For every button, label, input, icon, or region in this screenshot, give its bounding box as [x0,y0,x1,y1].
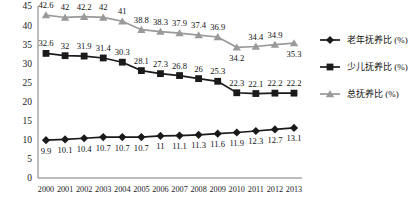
data-point-value-label: 10.7 [134,143,150,153]
data-point-marker-diamond [175,131,183,139]
x-axis-tick-label: 2004 [114,185,130,194]
data-point-value-label: 35.3 [286,49,301,59]
data-point-value-label: 22.2 [286,78,301,88]
data-point-marker-diamond [326,36,334,44]
data-point-value-label: 10.7 [96,143,112,153]
chart-canvas: 0510152025303540452000200120022003200420… [0,0,410,206]
y-axis-tick-label: 0 [27,173,32,183]
x-axis-tick-label: 2008 [190,185,206,194]
data-point-marker-diamond [156,132,164,140]
x-axis-tick-label: 2003 [95,185,111,194]
y-axis-tick-label: 10 [23,135,33,145]
x-axis-tick-label: 2009 [210,185,226,194]
data-point-value-label: 10.7 [115,143,131,153]
data-point-marker-diamond [80,134,88,142]
data-point-value-label: 37.9 [172,18,187,28]
data-point-value-label: 10.1 [58,145,73,155]
series-3: 42.64242.2424138.838.337.937.436.934.234… [38,0,301,63]
x-axis-tick-label: 2005 [133,185,149,194]
x-axis-tick-label: 2001 [57,185,73,194]
legend-item-2[interactable]: 少儿抚养比 (%) [320,61,408,72]
data-point-value-label: 30.3 [115,47,130,57]
data-point-value-label: 11 [156,141,164,151]
data-point-value-label: 10.4 [77,144,93,154]
data-point-value-label: 42.2 [77,2,92,12]
y-axis-tick-label: 15 [23,116,33,126]
data-point-marker-square [119,59,126,66]
x-axis-tick-label: 2002 [76,185,92,194]
x-axis-tick-label: 2012 [267,185,283,194]
data-point-value-label: 38.3 [153,17,168,27]
data-point-marker-square [291,90,298,97]
data-point-value-label: 31.9 [77,41,92,51]
data-point-marker-diamond [99,133,107,141]
data-point-marker-square [62,52,69,59]
data-point-marker-diamond [233,128,241,136]
data-point-value-label: 28.1 [134,56,149,66]
legend-label: 老年抚养比 (%) [347,34,408,45]
legend-item-3[interactable]: 总抚养比 (%) [320,88,399,99]
data-point-value-label: 34.9 [267,30,282,40]
data-point-value-label: 31.4 [96,43,112,53]
data-point-value-label: 32.6 [38,38,54,48]
y-axis-tick-label: 35 [23,40,33,50]
data-point-marker-diamond [252,127,260,135]
data-point-marker-diamond [118,133,126,141]
dependency-ratio-line-chart: 0510152025303540452000200120022003200420… [0,0,410,206]
x-axis-tick-label: 2007 [171,185,187,194]
y-axis-tick-label: 5 [27,154,32,164]
legend-label: 总抚养比 (%) [347,88,399,99]
series-2: 32.63231.931.430.328.127.326.82625.322.3… [38,38,301,97]
data-point-marker-square [43,50,50,57]
data-point-marker-square [214,78,221,85]
data-point-marker-square [138,67,145,74]
series-1: 9.910.110.410.710.710.71111.111.311.611.… [41,124,302,156]
y-axis-tick-label: 30 [23,59,33,69]
data-point-value-label: 9.9 [41,146,52,156]
y-axis-tick-label: 40 [23,21,33,31]
data-point-value-label: 36.9 [210,22,225,32]
data-point-marker-diamond [195,131,203,139]
data-point-marker-square [327,64,334,71]
data-point-value-label: 11.1 [172,141,187,151]
x-axis-tick-label: 2011 [248,185,264,194]
legend-item-1[interactable]: 老年抚养比 (%) [320,34,408,45]
data-point-value-label: 22.2 [267,78,282,88]
data-point-marker-square [272,90,279,97]
data-point-marker-square [233,89,240,96]
y-axis-tick-label: 45 [23,1,33,11]
data-point-marker-square [195,75,202,82]
data-point-value-label: 41 [118,6,127,16]
data-point-value-label: 22.3 [229,78,244,88]
data-point-value-label: 42 [61,2,70,12]
data-point-value-label: 26 [194,64,203,74]
data-point-value-label: 22.1 [248,79,263,89]
data-point-value-label: 32 [61,41,70,51]
data-point-value-label: 34.4 [248,32,264,42]
y-axis-tick-label: 20 [23,97,33,107]
data-point-value-label: 12.7 [267,135,283,145]
data-point-marker-square [176,72,183,79]
data-point-value-label: 26.8 [172,61,187,71]
data-point-marker-square [81,53,88,60]
data-point-value-label: 42 [99,2,108,12]
data-point-marker-diamond [42,136,50,144]
x-axis-tick-label: 2010 [229,185,245,194]
data-point-value-label: 12.3 [248,136,263,146]
x-axis-tick-label: 2000 [38,185,54,194]
y-axis-tick-label: 25 [23,78,33,88]
data-point-value-label: 42.6 [38,0,54,10]
data-point-marker-square [157,70,164,77]
data-point-marker-diamond [290,124,298,132]
data-point-marker-square [100,55,107,62]
data-point-value-label: 11.3 [191,140,206,150]
data-point-marker-diamond [271,125,279,133]
legend-label: 少儿抚养比 (%) [347,61,408,72]
x-axis-tick-label: 2013 [286,185,302,194]
data-point-value-label: 11.9 [229,138,244,148]
data-point-marker-diamond [61,135,69,143]
data-point-marker-square [252,90,259,97]
data-point-marker-diamond [214,130,222,138]
data-point-value-label: 11.6 [210,139,225,149]
data-point-value-label: 34.2 [229,53,244,63]
